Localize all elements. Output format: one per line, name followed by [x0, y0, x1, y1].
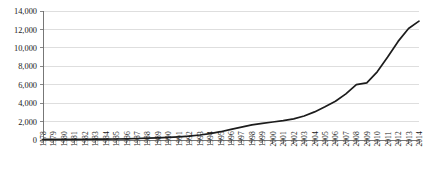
- x-axis-tick-label: 2001: [279, 131, 288, 146]
- x-axis-tick-label: 1991: [175, 131, 184, 146]
- x-axis-tick-label: 2003: [300, 131, 309, 146]
- line-chart: 02,0004,0006,0008,00010,00012,00014,000 …: [0, 0, 425, 173]
- x-axis-tick-label: 2000: [269, 131, 278, 146]
- x-axis-tick-label: 2013: [405, 131, 414, 146]
- x-axis-tick-label: 1999: [258, 131, 267, 146]
- y-axis-tick-label: 10,000: [14, 44, 37, 53]
- x-axis-tick-label: 1989: [154, 131, 163, 146]
- chart-plot-svg: 02,0004,0006,0008,00010,00012,00014,000 …: [0, 0, 425, 173]
- y-axis-labels-group: 02,0004,0006,0008,00010,00012,00014,000: [14, 7, 37, 145]
- y-axis-tick-label: 6,000: [18, 81, 37, 90]
- x-axis-tick-label: 1993: [196, 131, 205, 146]
- x-axis-tick-label: 2014: [415, 131, 424, 146]
- y-axis-tick-label: 2,000: [18, 118, 37, 127]
- x-axis-tick-label: 2008: [352, 131, 361, 146]
- x-axis-tick-label: 1992: [185, 131, 194, 146]
- x-axis-tick-label: 1996: [227, 131, 236, 146]
- axis-lines-group: [43, 11, 419, 140]
- y-axis-tick-label: 0: [33, 136, 37, 145]
- x-axis-tick-label: 2005: [321, 131, 330, 146]
- x-axis-tick-label: 1990: [164, 131, 173, 146]
- y-axis-tick-label: 12,000: [14, 26, 37, 35]
- x-axis-tick-label: 2007: [342, 131, 351, 146]
- gridlines-group: [40, 11, 419, 140]
- x-axis-tick-label: 1995: [217, 131, 226, 146]
- x-axis-tick-label: 2009: [363, 131, 372, 146]
- x-axis-tick-label: 1998: [248, 131, 257, 146]
- y-axis-tick-label: 8,000: [18, 62, 37, 71]
- x-axis-tick-label: 1997: [237, 131, 246, 146]
- x-axis-tick-label: 2004: [311, 131, 320, 146]
- y-axis-tick-label: 14,000: [14, 7, 37, 16]
- x-axis-tick-label: 2011: [384, 131, 393, 146]
- x-axis-tick-label: 2012: [394, 131, 403, 146]
- x-axis-tick-label: 2006: [331, 131, 340, 146]
- y-axis-tick-label: 4,000: [18, 99, 37, 108]
- x-axis-tick-label: 2010: [373, 131, 382, 146]
- x-axis-tick-label: 2002: [290, 131, 299, 146]
